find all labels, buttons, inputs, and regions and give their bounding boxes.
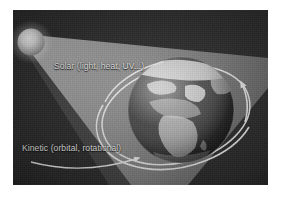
sun-layer <box>13 10 268 185</box>
diagram-panel: Solar (light, heat, UV...) Kinetic (orbi… <box>13 10 268 185</box>
sun-disc <box>18 29 45 56</box>
solar-label: Solar (light, heat, UV...) <box>54 61 144 71</box>
kinetic-label: Kinetic (orbital, rotational) <box>22 143 121 153</box>
figure-root: Solar (light, heat, UV...) Kinetic (orbi… <box>0 0 282 197</box>
